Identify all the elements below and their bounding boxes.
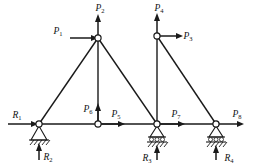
support-roller-1 [147,126,168,147]
truss-diagram: P1 P2 P3 P4 P5 P6 P7 P8 R1 R2 R3 R4 [0,0,259,165]
force-arrow-R4 [213,145,219,160]
node-r4 [213,121,219,127]
label-R3: R3 [141,153,151,164]
label-P6: P6 [82,104,93,115]
label-P1: P1 [52,26,62,37]
member-apexright-to-r4 [157,36,216,124]
force-arrow-P7 [157,121,185,127]
node-r1 [36,121,42,127]
truss-canvas: P1 P2 P3 P4 P5 P6 P7 P8 R1 R2 R3 R4 [0,0,259,165]
force-arrow-R2 [36,143,42,160]
force-labels: P1 P2 P3 P4 P5 P6 P7 P8 [52,3,241,120]
label-R4: R4 [223,153,234,164]
force-arrow-R3 [154,145,160,160]
label-P8: P8 [231,109,241,120]
force-arrow-P3 [157,33,183,39]
support-roller-2 [206,126,227,147]
label-P4: P4 [153,3,164,14]
node-apex-left [95,35,101,41]
force-arrow-P1 [70,35,98,41]
force-arrow-P8 [216,121,244,127]
node-r3 [154,121,160,127]
label-P3: P3 [182,31,192,42]
label-P7: P7 [170,109,181,120]
label-R1: R1 [11,110,21,121]
label-P5: P5 [110,109,120,120]
force-arrow-P5 [98,121,125,127]
force-arrow-R1 [8,121,38,127]
label-P2: P2 [94,3,104,14]
node-apex-right [154,33,160,39]
node-mid-bottom [95,121,101,127]
label-R2: R2 [42,152,52,163]
truss-members [39,36,216,124]
support-pin [29,126,50,145]
member-apexleft-to-r3 [98,38,157,124]
